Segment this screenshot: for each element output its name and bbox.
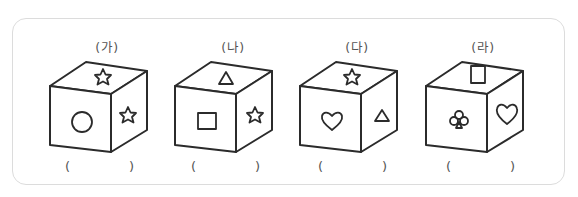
cube-ra xyxy=(0,0,578,197)
answer-close-paren-da: ) xyxy=(382,159,387,174)
answer-open-paren-da: ( xyxy=(318,159,323,174)
answer-open-paren-ra: ( xyxy=(446,159,451,174)
answer-open-paren-na: ( xyxy=(191,159,196,174)
answer-open-paren-ga: ( xyxy=(65,159,70,174)
answer-close-paren-ga: ) xyxy=(129,159,134,174)
answer-close-paren-ra: ) xyxy=(510,159,515,174)
answer-close-paren-na: ) xyxy=(255,159,260,174)
